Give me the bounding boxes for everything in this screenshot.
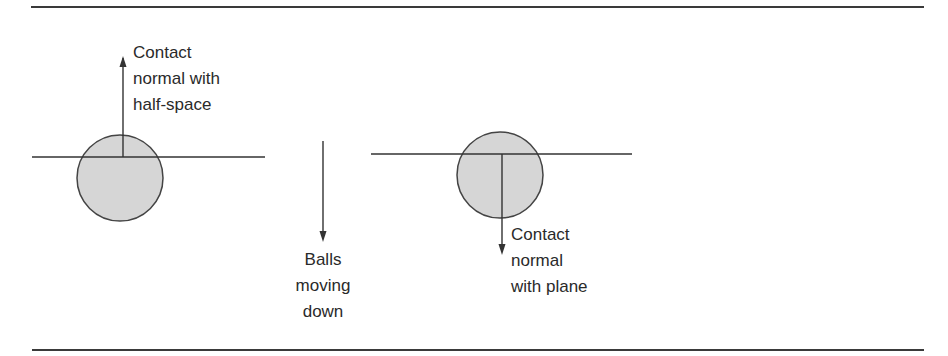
label-line: with plane — [511, 274, 588, 300]
arrowhead-down-icon — [499, 244, 506, 255]
arrowhead-down-icon — [320, 231, 327, 242]
label-line: Balls — [296, 247, 351, 273]
label-plane-normal: Contact normal with plane — [511, 222, 588, 300]
label-line: half-space — [133, 92, 220, 118]
diagram-canvas: Contact normal with half-space Balls mov… — [0, 0, 948, 356]
arrowhead-up-icon — [120, 56, 127, 67]
label-line: down — [296, 299, 351, 325]
label-balls-moving-down: Balls moving down — [296, 247, 351, 325]
label-line: moving — [296, 273, 351, 299]
label-half-space-normal: Contact normal with half-space — [133, 40, 220, 118]
middle-scene — [320, 141, 327, 242]
label-line: normal — [511, 248, 588, 274]
ball-right — [457, 132, 543, 218]
label-line: Contact — [133, 40, 220, 66]
label-line: normal with — [133, 66, 220, 92]
label-line: Contact — [511, 222, 588, 248]
ball-left — [77, 135, 163, 221]
right-scene — [371, 132, 632, 255]
